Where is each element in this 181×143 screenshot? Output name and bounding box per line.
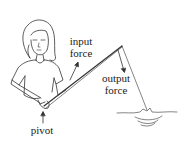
input-force-label: input force [66,36,96,59]
input-force-arrow [70,62,79,80]
water-surface [117,108,177,126]
pivot-label: pivot [26,125,58,136]
input-force-label-line2: force [66,48,96,59]
pivot-label-text: pivot [26,125,58,136]
output-force-label-line2: force [98,85,134,96]
output-force-label: output force [98,73,134,96]
diagram-artwork [0,0,181,143]
output-force-arrow [118,50,126,73]
lever-diagram: input force output force pivot [0,0,181,143]
pivot-arrow [41,112,45,124]
output-force-label-line1: output [98,73,134,84]
input-force-label-line1: input [66,36,96,47]
